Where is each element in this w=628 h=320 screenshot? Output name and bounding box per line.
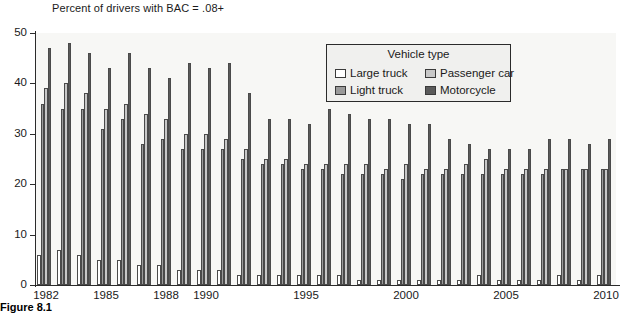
- legend-item-motorcycle: Motorcycle: [425, 84, 496, 96]
- x-axis-label: 2005: [486, 289, 526, 301]
- y-axis-line: [35, 31, 36, 287]
- x-axis-label: 2000: [386, 289, 426, 301]
- bar: [308, 124, 312, 285]
- bar: [48, 48, 52, 285]
- bar: [508, 149, 512, 285]
- bar: [468, 144, 472, 285]
- x-axis-line: [31, 285, 620, 286]
- bar: [88, 53, 92, 285]
- bar: [128, 53, 132, 285]
- x-axis-label: 1982: [26, 289, 66, 301]
- y-axis-tick: [30, 184, 36, 185]
- legend-label-motorcycle: Motorcycle: [440, 84, 496, 96]
- bar: [588, 144, 592, 285]
- bar: [388, 119, 392, 285]
- legend-item-light-truck: Light truck: [335, 84, 403, 96]
- legend-swatch-motorcycle-icon: [425, 86, 436, 95]
- y-axis-label: 30: [3, 128, 27, 140]
- x-axis-label: 1995: [286, 289, 326, 301]
- legend-swatch-light-truck-icon: [335, 86, 346, 95]
- bar: [408, 124, 412, 285]
- legend-label-large-truck: Large truck: [350, 67, 408, 79]
- bar: [368, 119, 372, 285]
- y-axis-tick: [30, 235, 36, 236]
- y-axis-tick: [30, 33, 36, 34]
- bar: [168, 78, 172, 285]
- bar: [608, 139, 612, 285]
- legend-swatch-large-truck-icon: [335, 69, 346, 78]
- bar: [328, 109, 332, 285]
- figure-caption: Figure 8.1: [0, 301, 52, 313]
- chart-title: Percent of drivers with BAC = .08+: [52, 2, 224, 14]
- bar: [148, 68, 152, 285]
- figure-8-1: Percent of drivers with BAC = .08+ 01020…: [0, 0, 628, 320]
- x-axis-label: 1988: [146, 289, 186, 301]
- bar: [108, 68, 112, 285]
- legend-label-light-truck: Light truck: [350, 84, 403, 96]
- y-axis-tick: [30, 83, 36, 84]
- bar: [568, 139, 572, 285]
- bar: [548, 139, 552, 285]
- legend-label-passenger-car: Passenger car: [440, 67, 514, 79]
- y-axis-label: 10: [3, 229, 27, 241]
- bar: [448, 139, 452, 285]
- y-axis-tick: [30, 134, 36, 135]
- y-axis-label: 20: [3, 178, 27, 190]
- bar: [288, 119, 292, 285]
- legend-title: Vehicle type: [327, 48, 510, 60]
- bar: [188, 63, 192, 285]
- legend: Vehicle type Large truck Passenger car L…: [326, 44, 511, 102]
- bar: [348, 114, 352, 285]
- bar: [208, 68, 212, 285]
- x-axis-label: 1985: [86, 289, 126, 301]
- x-axis-label: 2010: [586, 289, 626, 301]
- bar: [248, 93, 252, 285]
- bar: [428, 124, 432, 285]
- bar: [228, 63, 232, 285]
- bar: [268, 119, 272, 285]
- x-axis-label: 1990: [186, 289, 226, 301]
- y-axis-label: 50: [3, 27, 27, 39]
- y-axis-label: 40: [3, 77, 27, 89]
- y-axis-label: 0: [3, 279, 27, 291]
- legend-item-passenger-car: Passenger car: [425, 67, 514, 79]
- bar: [68, 43, 72, 285]
- bar: [488, 149, 492, 285]
- legend-swatch-passenger-car-icon: [425, 69, 436, 78]
- bar: [528, 149, 532, 285]
- y-axis-tick: [30, 285, 36, 286]
- legend-item-large-truck: Large truck: [335, 67, 408, 79]
